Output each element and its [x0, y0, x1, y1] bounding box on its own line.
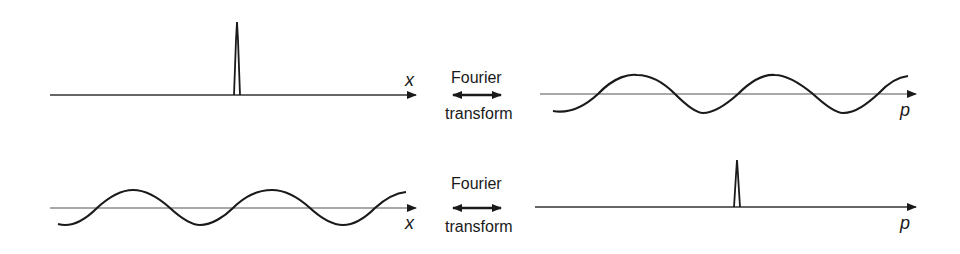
- x-axis-label: x: [405, 71, 414, 89]
- x-axis-label: x: [405, 214, 414, 232]
- delta-spike-curve: [234, 22, 240, 95]
- delta-spike-curve: [734, 160, 740, 207]
- bottom-right-momentum-delta-plot: [535, 160, 916, 207]
- top-left-position-delta-plot: [50, 22, 416, 95]
- transform-label: transform: [445, 219, 513, 235]
- p-axis-label: p: [900, 101, 910, 119]
- bottom-left-position-wave-plot: [50, 190, 416, 225]
- fourier-transform-diagram: [0, 0, 960, 254]
- transform-label: transform: [445, 106, 513, 122]
- p-axis-label: p: [900, 214, 910, 232]
- top-right-momentum-wave-plot: [540, 75, 916, 113]
- fourier-label: Fourier: [451, 70, 502, 86]
- fourier-label: Fourier: [451, 176, 502, 192]
